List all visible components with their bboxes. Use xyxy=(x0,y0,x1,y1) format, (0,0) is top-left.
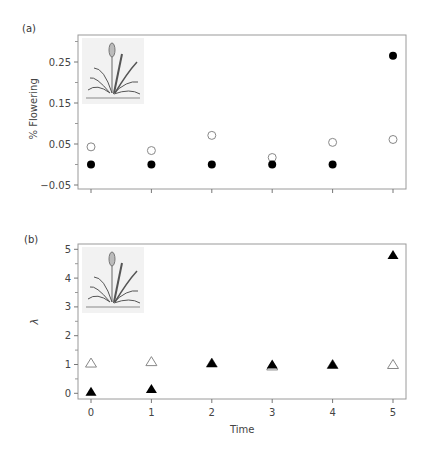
data-point-filled-circle xyxy=(147,161,155,169)
data-point-filled-triangle xyxy=(86,387,97,396)
y-tick-label: 2 xyxy=(65,330,71,341)
y-tick-label: 0.05 xyxy=(49,139,71,150)
y-tick-label: 4 xyxy=(65,273,71,284)
x-tick-label: 4 xyxy=(329,407,335,418)
data-point-open-triangle xyxy=(86,358,97,367)
data-point-filled-circle xyxy=(268,161,276,169)
y-tick-label: 1 xyxy=(65,359,71,370)
y-tick-label: 0.25 xyxy=(49,57,71,68)
data-point-open-circle xyxy=(329,138,337,146)
y-tick-label: 0 xyxy=(65,388,71,399)
data-point-open-circle xyxy=(268,154,276,162)
data-point-filled-circle xyxy=(208,161,216,169)
x-tick-label: 5 xyxy=(390,407,396,418)
plant-illustration-b xyxy=(82,247,144,313)
data-point-filled-circle xyxy=(329,161,337,169)
y-tick-label: 5 xyxy=(65,244,71,255)
data-point-open-triangle xyxy=(146,357,157,366)
data-point-filled-triangle xyxy=(146,384,157,393)
chart-canvas: 0.250.150.05−0.05 543210012345 xyxy=(0,0,427,451)
data-point-filled-triangle xyxy=(327,360,338,369)
data-point-open-circle xyxy=(87,143,95,151)
x-tick-label: 3 xyxy=(269,407,275,418)
data-point-open-triangle xyxy=(388,360,399,369)
data-point-open-circle xyxy=(208,131,216,139)
x-tick-label: 2 xyxy=(209,407,215,418)
x-tick-label: 1 xyxy=(148,407,154,418)
data-point-filled-circle xyxy=(87,161,95,169)
data-point-filled-circle xyxy=(389,52,397,60)
plant-illustration-a xyxy=(82,38,144,104)
data-point-open-circle xyxy=(389,135,397,143)
x-tick-label: 0 xyxy=(88,407,94,418)
data-point-filled-triangle xyxy=(206,358,217,367)
y-tick-label: 3 xyxy=(65,301,71,312)
y-tick-label: 0.15 xyxy=(49,98,71,109)
data-point-filled-triangle xyxy=(267,360,278,369)
data-point-filled-triangle xyxy=(388,250,399,259)
y-tick-label: −0.05 xyxy=(40,180,71,191)
data-point-open-circle xyxy=(147,147,155,155)
